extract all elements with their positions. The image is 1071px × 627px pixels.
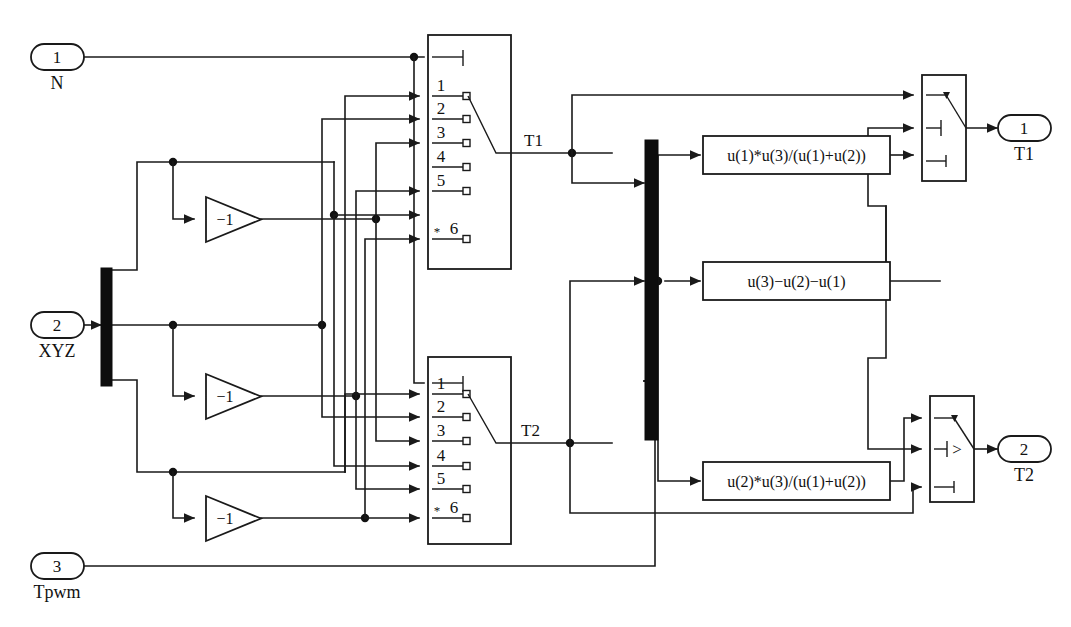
demux-block[interactable] xyxy=(101,268,112,386)
wire-gain3-to-sw1-p6 xyxy=(365,239,419,518)
inport-xyz-number: 2 xyxy=(53,316,62,335)
mps1-p3-knob xyxy=(463,140,470,147)
mux-bar[interactable] xyxy=(645,140,658,440)
wire-n-to-switch2-control xyxy=(414,57,424,383)
mps2-p3-knob xyxy=(463,438,470,445)
mps1-p4-knob xyxy=(463,164,470,171)
mps1-index-5: 5 xyxy=(437,171,446,190)
fcn-block-3-expression: u(2)*u(3)/(u(1)+u(2)) xyxy=(727,473,866,491)
multiport-switch-t2[interactable]: 1 2 3 4 5 * 6 xyxy=(428,357,511,544)
gain-1-value: −1 xyxy=(216,211,233,228)
wire-demux3-to-gain3 xyxy=(173,472,194,518)
mps2-p2-knob xyxy=(463,414,470,421)
gain-2-value: −1 xyxy=(216,388,233,405)
inport-n-number: 1 xyxy=(53,48,62,67)
mps2-p5-knob xyxy=(463,486,470,493)
switch-t1[interactable] xyxy=(922,75,966,181)
outport-t2[interactable]: 2 T2 xyxy=(998,436,1051,485)
wire-mux-out-bot xyxy=(658,281,700,481)
wire-fcn2-to-switch-bot-ctrl xyxy=(868,281,921,449)
gain-block-3[interactable]: −1 xyxy=(206,496,261,541)
gain-block-1[interactable]: −1 xyxy=(206,197,261,242)
mps2-index-5: 5 xyxy=(437,469,446,488)
mps2-index-1: 1 xyxy=(437,374,446,393)
mps2-p6-knob xyxy=(463,515,470,522)
inport-tpwm[interactable]: 3 Tpwm xyxy=(31,553,84,602)
fcn-block-2[interactable]: u(3)−u(2)−u(1) xyxy=(703,262,890,300)
inport-xyz-label: XYZ xyxy=(39,341,76,361)
fcn-block-2-expression: u(3)−u(2)−u(1) xyxy=(747,273,845,291)
mps2-index-2: 2 xyxy=(437,397,446,416)
mps1-p6-knob xyxy=(463,236,470,243)
wire-demux1-to-gain1 xyxy=(173,162,194,219)
fcn-block-3[interactable]: u(2)*u(3)/(u(1)+u(2)) xyxy=(703,462,890,500)
wire-demux2-to-sw2-p2 xyxy=(322,325,419,417)
inport-tpwm-number: 3 xyxy=(53,557,62,576)
mps2-index-6: 6 xyxy=(450,498,459,517)
wire-demux2-to-sw1-p2 xyxy=(322,119,419,325)
mps2-p4-knob xyxy=(463,463,470,470)
mps2-marker: * xyxy=(434,503,441,518)
gain-block-2[interactable]: −1 xyxy=(206,374,261,419)
inport-xyz[interactable]: 2 XYZ xyxy=(31,312,84,361)
wire-gain1-to-sw1-p3 xyxy=(376,143,419,219)
simulink-diagram-canvas: 1 N 2 XYZ 3 Tpwm −1 −1 −1 xyxy=(0,0,1071,627)
outport-t1-number: 1 xyxy=(1020,119,1029,138)
mps1-index-3: 3 xyxy=(437,123,446,142)
mps2-index-3: 3 xyxy=(437,421,446,440)
fcn-block-1-expression: u(1)*u(3)/(u(1)+u(2)) xyxy=(727,147,866,165)
switch-t2-criteria: > xyxy=(952,440,962,459)
signal-label-t2: T2 xyxy=(521,421,540,440)
block-diagram-svg: 1 N 2 XYZ 3 Tpwm −1 −1 −1 xyxy=(0,0,1071,627)
mps1-index-2: 2 xyxy=(437,99,446,118)
mps1-index-6: 6 xyxy=(450,219,459,238)
mps1-p5-knob xyxy=(463,188,470,195)
outport-t2-label: T2 xyxy=(1014,465,1034,485)
wire-demux2-to-gain2 xyxy=(173,325,194,396)
mps1-p2-knob xyxy=(463,116,470,123)
mps1-index-1: 1 xyxy=(437,76,446,95)
outport-t1-label: T1 xyxy=(1014,144,1034,164)
mps1-marker: * xyxy=(434,224,441,239)
wire-gain1-to-sw2-p3 xyxy=(376,219,419,441)
demux-bar[interactable] xyxy=(101,268,112,386)
inport-tpwm-label: Tpwm xyxy=(34,582,81,602)
mps1-index-4: 4 xyxy=(437,147,446,166)
outport-t1[interactable]: 1 T1 xyxy=(998,115,1051,164)
inport-n[interactable]: 1 N xyxy=(31,44,84,93)
fcn-block-1[interactable]: u(1)*u(3)/(u(1)+u(2)) xyxy=(703,136,890,174)
mps2-index-4: 4 xyxy=(437,446,446,465)
inport-n-label: N xyxy=(51,73,64,93)
wire-t1-to-mux-in1 xyxy=(572,153,644,183)
outport-t2-number: 2 xyxy=(1020,440,1029,459)
wire-t2-to-mux-in2 xyxy=(570,281,644,443)
gain-3-value: −1 xyxy=(216,510,233,527)
multiport-switch-t1[interactable]: 1 2 3 4 5 * 6 xyxy=(428,35,511,269)
mux-block[interactable] xyxy=(645,140,658,440)
switch-t2[interactable]: > xyxy=(930,396,974,502)
signal-label-t1: T1 xyxy=(524,131,543,150)
wire-mux-out-top xyxy=(658,155,700,281)
